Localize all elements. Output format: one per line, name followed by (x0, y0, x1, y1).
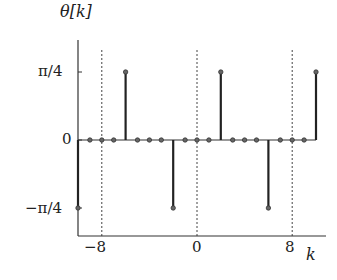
stem-marker (123, 70, 127, 74)
y-axis-label: θ[k] (60, 2, 92, 21)
stem-marker (112, 138, 116, 142)
x-tick-label-8: 8 (285, 238, 295, 256)
stem-marker (290, 138, 294, 142)
stem-marker (314, 70, 318, 74)
stem-marker (147, 138, 151, 142)
stem-marker (278, 138, 282, 142)
stem-marker (159, 138, 163, 142)
x-tick-label-0: 0 (192, 238, 202, 256)
x-tick-label-neg8: −8 (84, 238, 106, 256)
y-tick-label-pi-over-4: π/4 (38, 62, 62, 80)
stem-marker (302, 138, 306, 142)
stem-marker (242, 138, 246, 142)
stem-marker (135, 138, 139, 142)
y-tick-label-neg-pi-over-4: −π/4 (25, 199, 62, 217)
stem-marker (266, 206, 270, 210)
stem-marker (254, 138, 258, 142)
stem-marker (171, 206, 175, 210)
stem-marker (88, 138, 92, 142)
stem-marker (231, 138, 235, 142)
stem-marker (100, 138, 104, 142)
x-axis-label: k (306, 245, 316, 264)
stem-marker (76, 206, 80, 210)
stem-marker (195, 138, 199, 142)
stem-marker (183, 138, 187, 142)
stem-marker (207, 138, 211, 142)
stem-marker (219, 70, 223, 74)
y-tick-label-zero: 0 (62, 130, 72, 148)
